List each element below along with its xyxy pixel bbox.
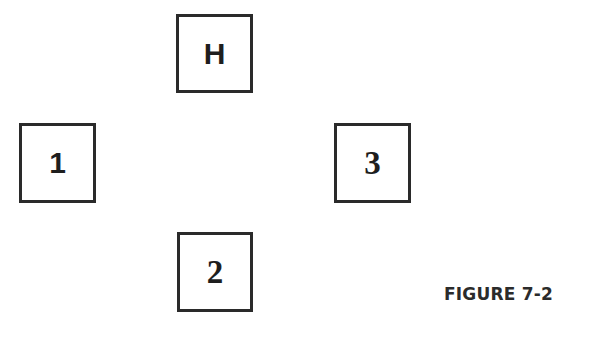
box-3-label: 3 (364, 147, 381, 180)
box-2: 2 (177, 232, 253, 312)
box-h-label: H (204, 39, 226, 69)
box-1-label: 1 (49, 148, 66, 178)
box-2-label: 2 (207, 256, 224, 289)
box-h: H (176, 14, 253, 93)
box-1: 1 (19, 123, 96, 203)
box-3: 3 (334, 123, 411, 203)
figure-caption: FIGURE 7-2 (444, 284, 553, 304)
